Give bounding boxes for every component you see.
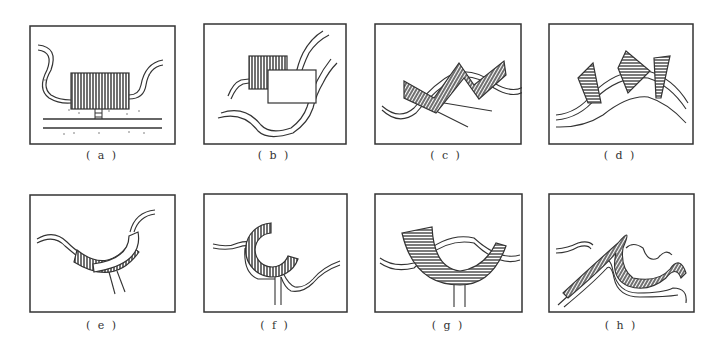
panel-c-label: ( c )	[416, 149, 476, 162]
panel-b	[203, 23, 347, 145]
panel-f-label: ( f )	[245, 319, 305, 332]
panel-f	[203, 193, 348, 313]
panel-h	[548, 193, 695, 313]
panel-c-drawing	[374, 23, 522, 145]
panel-a-drawing	[29, 25, 176, 145]
panel-e	[29, 194, 176, 313]
panel-a-label: ( a )	[72, 149, 132, 162]
panel-g-label: ( g )	[418, 319, 478, 332]
panel-c	[374, 23, 522, 145]
panel-d-label: ( d )	[590, 149, 650, 162]
panel-h-drawing	[548, 193, 695, 313]
panel-h-label: ( h )	[591, 319, 651, 332]
panel-g-drawing	[374, 193, 523, 313]
panel-b-drawing	[203, 23, 347, 145]
panel-f-drawing	[203, 193, 348, 313]
panel-b-label: ( b )	[244, 149, 304, 162]
panel-d-drawing	[548, 23, 694, 145]
panel-e-drawing	[29, 194, 176, 313]
panel-d	[548, 23, 694, 145]
panel-a	[29, 25, 176, 145]
panel-g	[374, 193, 523, 313]
panel-e-label: ( e )	[72, 319, 132, 332]
